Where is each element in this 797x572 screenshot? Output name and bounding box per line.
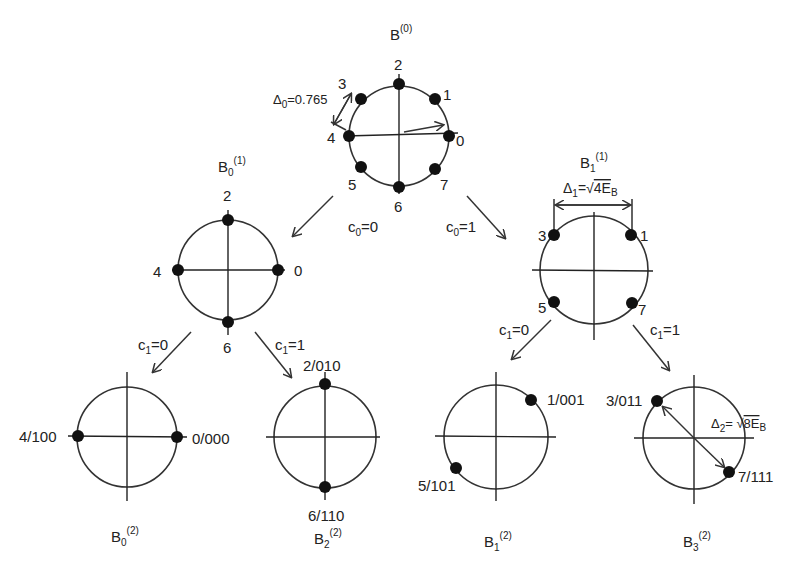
b1-1-point-1	[625, 229, 637, 241]
constellation-b0-2: 4/100 0/000 B0(2)	[19, 372, 230, 548]
root-point-2	[393, 78, 405, 90]
b0-1-point-4	[172, 264, 184, 276]
b1-1-point-5	[548, 296, 560, 308]
root-point-3	[355, 93, 367, 105]
constellation-b1-1: B1(1) Δ1=√4EB 1 3 5 7	[532, 151, 653, 340]
root-point-1	[429, 93, 441, 105]
b0-2-point-0	[171, 431, 183, 443]
constellation-b1-2: 1/001 5/101 B1(2)	[418, 372, 585, 553]
b3-2-delta-label: Δ2= √8EB	[711, 416, 767, 434]
root-label-0: 0	[456, 132, 464, 149]
b1-1-delta-label: Δ1=√4EB	[563, 180, 618, 199]
root-point-0	[443, 130, 455, 142]
edge-label-c0-0: c0=0	[348, 218, 378, 238]
root-label-7: 7	[440, 176, 448, 193]
b1-1-point-3	[548, 229, 560, 241]
b1-1-label-3: 3	[538, 227, 546, 244]
edge-label-c1-0-left: c1=0	[138, 336, 168, 356]
root-point-6	[393, 181, 405, 193]
root-point-4	[343, 130, 355, 142]
b0-2-label-0: 0/000	[192, 430, 230, 447]
constellation-b2-2: 2/010 6/110 B2(2)	[266, 357, 380, 550]
edge-label-c1-0-right: c1=0	[499, 321, 529, 341]
b0-1-label-2: 2	[223, 187, 231, 204]
edge-label-c1-1-left: c1=1	[275, 336, 305, 356]
root-label-4: 4	[327, 129, 335, 146]
b3-2-point-7	[723, 466, 735, 478]
b3-2-title: B3(2)	[683, 530, 711, 553]
b0-2-label-4: 4/100	[19, 428, 57, 445]
b2-2-point-6	[319, 481, 331, 493]
b1-2-label-1: 1/001	[547, 391, 585, 408]
b0-1-title: B0(1)	[218, 155, 246, 178]
root-point-7	[429, 163, 441, 175]
b1-1-label-7: 7	[638, 301, 646, 318]
b0-1-label-6: 6	[223, 339, 231, 356]
b1-2-point-5	[450, 462, 462, 474]
b3-2-point-3	[651, 395, 663, 407]
b1-1-point-7	[626, 297, 638, 309]
root-label-3: 3	[338, 75, 346, 92]
b1-2-title: B1(2)	[484, 530, 512, 553]
b3-2-label-3: 3/011	[606, 392, 642, 409]
root-label-5: 5	[348, 176, 356, 193]
root-title: B(0)	[390, 23, 412, 43]
root-axis-horizontal	[345, 133, 458, 136]
root-label-1: 1	[443, 86, 451, 103]
b2-2-label-6: 6/110	[308, 507, 344, 524]
root-delta-label: Δ0=0.765	[273, 92, 327, 110]
b1-2-label-5: 5/101	[418, 477, 456, 494]
edge-label-c0-1: c0=1	[446, 218, 476, 238]
root-label-6: 6	[394, 198, 402, 215]
b3-2-label-7: 7/111	[738, 468, 773, 485]
b1-1-title: B1(1)	[580, 151, 608, 174]
b0-1-point-0	[272, 264, 284, 276]
root-radius-arrow	[404, 125, 443, 132]
b3-2-delta-arrow	[663, 407, 693, 437]
edge-label-c1-1-right: c1=1	[650, 321, 680, 341]
b1-1-label-5: 5	[538, 299, 546, 316]
b1-2-point-1	[525, 394, 537, 406]
b0-1-label-4: 4	[153, 263, 161, 280]
b0-1-point-6	[222, 316, 234, 328]
b0-2-title: B0(2)	[111, 525, 139, 548]
edge-root-to-b0-1	[293, 196, 333, 236]
b0-2-point-4	[72, 430, 84, 442]
b0-1-point-2	[222, 214, 234, 226]
constellation-b0-1: B0(1) 0 2 4 6	[153, 155, 302, 356]
set-partitioning-diagram: B(0) 0 1 2 3 4 5 6 7 Δ0=0.765 c0=0 c0=1 …	[0, 0, 797, 572]
b0-1-label-0: 0	[294, 262, 302, 279]
constellation-b3-2: 3/011 7/111 Δ2= √8EB B3(2)	[606, 375, 773, 553]
b2-2-point-2	[319, 378, 331, 390]
root-label-2: 2	[394, 56, 402, 73]
b1-1-label-1: 1	[640, 227, 648, 244]
constellation-root-b0: B(0) 0 1 2 3 4 5 6 7 Δ0=0.765	[273, 23, 464, 215]
root-point-5	[355, 161, 367, 173]
b2-2-label-2: 2/010	[303, 357, 341, 374]
b2-2-title: B2(2)	[314, 527, 342, 550]
